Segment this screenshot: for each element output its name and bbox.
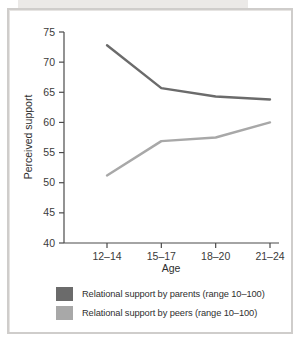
y-tick-label: 70 <box>43 56 55 68</box>
legend-swatch-parents <box>56 287 73 301</box>
y-tick-group: 4045505560657075 <box>43 26 64 249</box>
y-tick-label: 60 <box>43 116 55 128</box>
x-tick-label: 18–20 <box>201 250 230 262</box>
chart-legend: Relational support by parents (range 10–… <box>56 286 286 324</box>
x-axis-title: Age <box>162 262 181 274</box>
y-tick-label: 55 <box>43 146 55 158</box>
series-group <box>107 45 270 175</box>
y-tick-label: 40 <box>43 237 55 249</box>
legend-label-peers: Relational support by peers (range 10–10… <box>82 308 257 318</box>
legend-label-parents: Relational support by parents (range 10–… <box>82 289 265 299</box>
figure-root: 4045505560657075 12–1415–1718–2021–24 Ag… <box>0 0 306 343</box>
series-line-parents <box>107 45 270 99</box>
x-tick-label: 15–17 <box>147 250 176 262</box>
legend-item-peers: Relational support by peers (range 10–10… <box>56 305 286 320</box>
y-tick-label: 50 <box>43 176 55 188</box>
y-tick-label: 45 <box>43 206 55 218</box>
legend-item-parents: Relational support by parents (range 10–… <box>56 286 286 301</box>
x-tick-label: 21–24 <box>255 250 284 262</box>
series-line-peers <box>107 122 270 175</box>
y-tick-label: 65 <box>43 86 55 98</box>
y-tick-label: 75 <box>43 26 55 38</box>
x-tick-label: 12–14 <box>92 250 121 262</box>
x-tick-group: 12–1415–1718–2021–24 <box>92 243 284 262</box>
y-axis-title: Perceived support <box>22 95 34 180</box>
legend-swatch-peers <box>56 306 73 320</box>
